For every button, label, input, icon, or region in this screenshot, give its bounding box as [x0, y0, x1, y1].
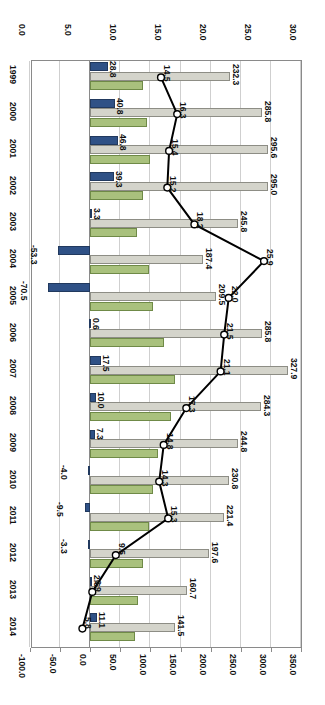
year-label: 2003	[8, 212, 18, 231]
advertising-value-label: 14.5	[162, 65, 172, 82]
advertising-value-label: 18.2	[195, 212, 205, 229]
secondary-tick-label: 200.0	[198, 654, 208, 675]
operating-income-value-label: -9.5	[56, 502, 66, 517]
year-label: 2000	[8, 102, 18, 121]
operating-income-value-label: 3.3	[92, 208, 102, 220]
advertising-value-label: 5.8	[83, 617, 93, 629]
secondary-tick-label: 150.0	[168, 654, 178, 675]
sales-value-label: 160.7	[188, 579, 198, 600]
operating-income-value-label: 11.1	[97, 612, 107, 628]
advertising-value-label: 22.0	[230, 286, 240, 303]
sales-value-label: 197.6	[210, 542, 220, 563]
operating-income-value-label: 7.3	[95, 429, 105, 441]
sales-value-label: 285.8	[263, 321, 273, 342]
advertising-value-label: 14.8	[165, 433, 175, 450]
secondary-tick-label: -100.0	[18, 654, 28, 678]
operating-income-value-label: 10.0	[96, 392, 106, 409]
year-label: 2001	[8, 139, 18, 158]
plot-area: 232.328.814.5285.840.816.3295.646.815.42…	[31, 60, 302, 648]
primary-tick-label: 25.0	[243, 24, 253, 41]
year-label: 2013	[8, 580, 18, 599]
axis-tick-mark	[150, 648, 151, 652]
year-label: 2006	[8, 323, 18, 342]
advertising-value-label: 21.1	[222, 359, 232, 376]
year-label: 2010	[8, 470, 18, 489]
operating-income-value-label: -53.3	[29, 245, 39, 264]
year-label: 2012	[8, 543, 18, 562]
secondary-tick-label: 300.0	[258, 654, 268, 675]
axis-tick-mark	[181, 648, 182, 652]
advertising-line-series	[30, 59, 301, 647]
operating-income-value-label: -70.5	[19, 282, 29, 301]
sales-value-label: 230.8	[230, 468, 240, 489]
sales-value-label: 232.3	[231, 64, 241, 85]
advertising-value-label: 6.9	[93, 580, 103, 592]
advertising-value-label: 15.4	[170, 139, 180, 156]
advertising-value-label: 15.2	[168, 176, 178, 193]
rotated-chart-container: -100.0-50.00.050.0100.0150.0200.0250.030…	[0, 0, 325, 705]
sales-value-label: 245.8	[239, 211, 249, 232]
operating-income-value-label: 46.8	[118, 135, 128, 152]
chart-canvas: -100.0-50.00.050.0100.0150.0200.0250.030…	[0, 0, 325, 705]
secondary-tick-label: 100.0	[138, 654, 148, 675]
advertising-value-label: 17.3	[187, 396, 197, 413]
axis-tick-mark	[60, 648, 61, 652]
sales-value-label: 285.8	[263, 101, 273, 122]
year-label: 2014	[8, 617, 18, 636]
secondary-tick-label: 0.0	[78, 654, 88, 666]
primary-tick-label: 15.0	[153, 24, 163, 41]
axis-tick-mark	[271, 648, 272, 652]
year-label: 2002	[8, 176, 18, 195]
secondary-tick-label: 250.0	[228, 654, 238, 675]
primary-tick-label: 30.0	[289, 24, 299, 41]
advertising-line	[82, 77, 264, 628]
sales-value-label: 327.9	[289, 358, 299, 379]
primary-tick-label: 10.0	[108, 24, 118, 41]
advertising-value-label: 15.3	[169, 506, 179, 523]
axis-tick-mark	[241, 648, 242, 652]
axis-tick-mark	[211, 648, 212, 652]
year-label: 2009	[8, 433, 18, 452]
advertising-value-label: 14.3	[160, 470, 170, 487]
primary-tick-label: 0.0	[18, 24, 28, 36]
advertising-value-label: 25.9	[265, 249, 275, 266]
secondary-tick-label: 350.0	[289, 654, 299, 675]
advertising-value-label: 16.3	[178, 102, 188, 119]
secondary-tick-label: -50.0	[48, 654, 58, 673]
operating-income-value-label: 39.3	[114, 171, 124, 188]
axis-tick-mark	[30, 648, 31, 652]
operating-income-value-label: 28.8	[108, 61, 118, 78]
sales-value-label: 244.8	[239, 432, 249, 453]
sales-value-label: 284.3	[262, 395, 272, 416]
year-label: 2007	[8, 359, 18, 378]
primary-tick-label: 20.0	[198, 24, 208, 41]
operating-income-value-label: 0.6	[91, 318, 101, 330]
operating-income-value-label: 17.5	[101, 355, 111, 372]
axis-tick-mark	[90, 648, 91, 652]
year-label: 2008	[8, 396, 18, 415]
year-label: 1999	[8, 65, 18, 84]
sales-value-label: 209.5	[217, 285, 227, 306]
operating-income-value-label: -3.3	[59, 539, 69, 554]
advertising-value-label: 9.5	[117, 543, 127, 555]
year-label: 2004	[8, 249, 18, 268]
operating-income-value-label: -4.0	[59, 465, 69, 480]
operating-income-value-label: 40.8	[115, 98, 125, 115]
primary-tick-label: 5.0	[63, 24, 73, 36]
sales-value-label: 295.6	[269, 138, 279, 159]
advertising-value-label: 21.5	[225, 323, 235, 340]
year-label: 2005	[8, 286, 18, 305]
axis-tick-mark	[301, 648, 302, 652]
sales-value-label: 187.4	[204, 248, 214, 269]
sales-value-label: 141.5	[176, 615, 186, 636]
secondary-tick-label: 50.0	[108, 654, 118, 671]
sales-value-label: 221.4	[225, 505, 235, 526]
axis-tick-mark	[120, 648, 121, 652]
sales-value-label: 295.0	[269, 174, 279, 195]
year-label: 2011	[8, 506, 18, 524]
